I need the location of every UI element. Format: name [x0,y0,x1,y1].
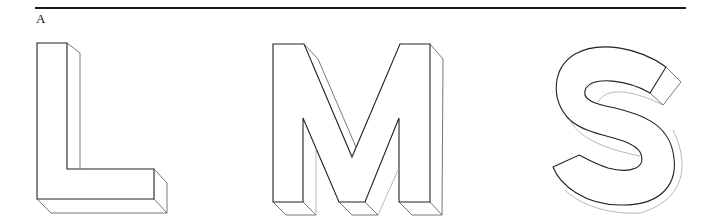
letter-s [553,47,682,213]
letters-figure [0,0,717,219]
letter-l [37,43,167,213]
letter-m [273,44,443,215]
